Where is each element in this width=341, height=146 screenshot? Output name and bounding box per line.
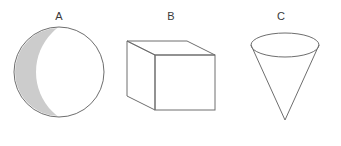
shapes-figure: A B C <box>0 0 341 146</box>
shape-a-group <box>14 13 148 131</box>
cone-base-ellipse <box>251 33 319 57</box>
cone-sides <box>251 45 319 120</box>
box-left-face <box>127 41 155 110</box>
crescent-shade <box>15 13 148 131</box>
shape-label-c: C <box>271 10 291 22</box>
box-front-face <box>155 55 215 110</box>
shape-label-b: B <box>161 10 181 22</box>
shape-b-group <box>127 41 215 110</box>
shape-c-group <box>251 33 319 120</box>
shape-label-a: A <box>49 10 69 22</box>
